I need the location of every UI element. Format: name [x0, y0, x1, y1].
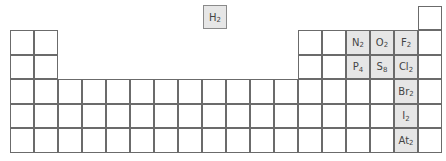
- element-cell: [130, 128, 154, 153]
- element-cell: [346, 79, 370, 104]
- molecule-cell: Cl2: [394, 55, 418, 80]
- element-cell: [106, 128, 130, 153]
- element-cell: [34, 79, 58, 104]
- element-cell: [250, 128, 274, 153]
- element-symbol: At: [398, 135, 409, 146]
- element-cell: [274, 104, 298, 129]
- element-subscript: 2: [405, 115, 409, 123]
- element-cell: [322, 55, 346, 80]
- element-cell: [178, 79, 202, 104]
- element-cell: [322, 128, 346, 153]
- element-cell: [10, 104, 34, 129]
- molecule-cell: I2: [394, 104, 418, 129]
- element-cell: [34, 104, 58, 129]
- element-subscript: 2: [407, 41, 411, 49]
- element-cell: [418, 55, 442, 80]
- element-cell: [226, 79, 250, 104]
- element-cell: [346, 128, 370, 153]
- element-cell: [274, 128, 298, 153]
- element-cell: [418, 6, 442, 31]
- element-symbol: H: [209, 12, 217, 23]
- element-cell: [346, 104, 370, 129]
- element-subscript: 4: [359, 66, 363, 74]
- element-cell: [202, 128, 226, 153]
- element-cell: [34, 30, 58, 55]
- element-cell: [34, 55, 58, 80]
- element-symbol: Br: [398, 86, 409, 97]
- element-cell: [154, 128, 178, 153]
- element-cell: [154, 104, 178, 129]
- element-cell: [58, 79, 82, 104]
- element-cell: [58, 128, 82, 153]
- element-cell: [418, 104, 442, 129]
- molecule-cell: F2: [394, 30, 418, 55]
- element-subscript: 2: [409, 139, 413, 147]
- element-cell: [10, 30, 34, 55]
- element-subscript: 2: [409, 90, 413, 98]
- element-cell: [106, 104, 130, 129]
- element-cell: [10, 79, 34, 104]
- molecule-cell: S8: [370, 55, 394, 80]
- element-cell: [178, 128, 202, 153]
- element-cell: [82, 79, 106, 104]
- element-cell: [298, 128, 322, 153]
- element-cell: [202, 104, 226, 129]
- element-cell: [298, 79, 322, 104]
- element-cell: [226, 128, 250, 153]
- molecule-cell: O2: [370, 30, 394, 55]
- element-subscript: 8: [383, 66, 387, 74]
- element-subscript: 2: [384, 41, 388, 49]
- element-subscript: 2: [360, 41, 364, 49]
- element-cell: [106, 79, 130, 104]
- element-cell: [322, 30, 346, 55]
- element-cell: [250, 79, 274, 104]
- element-symbol: Cl: [399, 61, 409, 72]
- hydrogen-molecule-cell: H2: [203, 5, 227, 29]
- element-cell: [418, 30, 442, 55]
- element-cell: [370, 104, 394, 129]
- element-cell: [130, 104, 154, 129]
- element-cell: [298, 55, 322, 80]
- element-subscript: 2: [217, 16, 221, 24]
- element-cell: [202, 79, 226, 104]
- element-cell: [154, 79, 178, 104]
- element-cell: [10, 128, 34, 153]
- element-cell: [58, 104, 82, 129]
- element-cell: [130, 79, 154, 104]
- element-cell: [34, 128, 58, 153]
- element-cell: [82, 128, 106, 153]
- element-cell: [418, 79, 442, 104]
- element-cell: [178, 104, 202, 129]
- element-cell: [10, 55, 34, 80]
- element-cell: [274, 79, 298, 104]
- element-cell: [298, 30, 322, 55]
- element-cell: [298, 104, 322, 129]
- element-cell: [322, 79, 346, 104]
- element-symbol: O: [376, 37, 384, 48]
- element-cell: [418, 128, 442, 153]
- molecule-cell: At2: [394, 128, 418, 153]
- element-symbol: N: [352, 37, 359, 48]
- element-cell: [370, 128, 394, 153]
- element-cell: [226, 104, 250, 129]
- element-subscript: 2: [409, 66, 413, 74]
- element-cell: [370, 79, 394, 104]
- element-cell: [250, 104, 274, 129]
- molecule-cell: P4: [346, 55, 370, 80]
- element-cell: [82, 104, 106, 129]
- molecule-cell: N2: [346, 30, 370, 55]
- molecule-cell: Br2: [394, 79, 418, 104]
- element-cell: [322, 104, 346, 129]
